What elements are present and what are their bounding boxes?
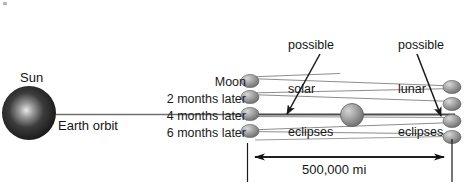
moon-time-label-0: Moon [118,74,246,91]
moon-time-label-3: 6 months later [118,125,246,142]
lunar-eclipse-annotation: possible lunar eclipses [398,9,444,169]
solar-eclipse-annotation-line-0: possible [288,38,334,53]
lunar-eclipse-annotation-line-1: lunar [398,82,444,97]
moon-time-label-2: 4 months later [118,108,246,125]
solar-eclipse-annotation-line-1: solar [288,82,334,97]
earth-body [341,104,364,127]
solar-eclipse-annotation: possible solar eclipses [288,9,334,169]
earth-orbit-label: Earth orbit [58,118,118,133]
dimension-label: 500,000 mi [302,162,366,177]
lunar-eclipse-annotation-line-0: possible [398,38,444,53]
solar-eclipse-annotation-line-2: eclipses [288,125,334,140]
sun-body [2,86,56,140]
sun-label: Sun [20,70,43,85]
moon-positions-right [443,80,461,143]
lunar-eclipse-annotation-line-2: eclipses [398,125,444,140]
moon-time-labels: Moon 2 months later 4 months later 6 mon… [118,74,246,142]
moon-time-label-1: 2 months later [118,91,246,108]
eclipse-diagram: Sun Earth orbit Moon 2 months later 4 mo… [0,0,475,187]
